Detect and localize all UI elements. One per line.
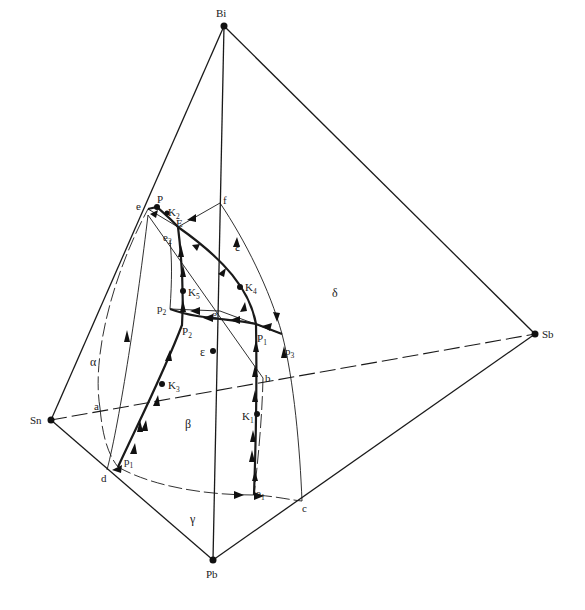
arrow-icon — [273, 312, 280, 322]
edge-bi-sn — [51, 26, 224, 420]
point-K5-dot — [180, 288, 186, 294]
arrow-icon — [178, 245, 184, 257]
label-P1: P1 — [257, 332, 267, 347]
label-f: f — [223, 194, 227, 206]
curve-a-e — [98, 209, 148, 408]
label-epsilon-upper: ε — [235, 240, 240, 254]
label-K4: K4 — [245, 281, 257, 296]
point-epsilon-dot — [210, 348, 216, 354]
vertex-bi-dot — [221, 23, 228, 30]
label-p2: p2 — [157, 302, 167, 317]
label-d: d — [101, 472, 107, 484]
label-K1: K1 — [242, 410, 254, 425]
label-beta: β — [185, 417, 191, 431]
vertex-dots — [48, 23, 539, 564]
vertex-sb-dot — [532, 331, 539, 338]
label-p1: p1 — [124, 455, 134, 470]
arrow-icon — [190, 307, 200, 315]
vertex-sn-dot — [48, 417, 55, 424]
arrow-icon — [252, 471, 258, 481]
edge-bi-pb — [213, 26, 224, 560]
label-b: b — [265, 372, 271, 384]
label-sn: Sn — [30, 414, 42, 426]
label-bi: Bi — [216, 7, 226, 19]
point-K3-dot — [159, 381, 165, 387]
curve-p2-e2 — [170, 240, 172, 309]
edge-bi-sb — [224, 26, 535, 334]
arrow-icon — [240, 302, 247, 312]
label-P: P — [157, 193, 163, 205]
label-sb: Sb — [542, 328, 554, 340]
point-K1-dot — [254, 411, 260, 417]
tetrahedron-diagram: Bi Sn Pb Sb α β γ δ ε ε a b c d e f g E … — [0, 0, 585, 610]
arrow-icon — [249, 450, 255, 462]
arrow-icon — [180, 300, 186, 312]
label-e2: e2 — [163, 231, 172, 246]
label-a: a — [94, 400, 99, 412]
label-P2: P2 — [182, 325, 192, 340]
label-K5: K5 — [188, 286, 200, 301]
label-pb: Pb — [206, 568, 218, 580]
arrow-icon — [124, 330, 130, 342]
arrow-icon — [230, 316, 240, 324]
label-gamma: γ — [189, 512, 196, 526]
arrow-icon — [192, 244, 200, 251]
arrow-icon — [234, 491, 244, 499]
point-K4-dot — [237, 284, 243, 290]
label-g: g — [212, 308, 218, 320]
label-e: e — [136, 200, 141, 212]
label-delta: δ — [332, 286, 338, 300]
label-alpha: α — [90, 355, 97, 369]
curve-a-p1 — [100, 408, 118, 467]
label-K3: K3 — [168, 379, 180, 394]
edge-pb-sb — [213, 334, 535, 560]
label-e1: e1 — [256, 487, 265, 502]
arrow-icon — [130, 443, 137, 454]
edge-sn-sb-hidden — [51, 334, 535, 420]
label-c: c — [302, 502, 307, 514]
vertex-pb-dot — [210, 557, 217, 564]
label-epsilon-lower: ε — [200, 345, 205, 359]
line-f-E — [178, 203, 220, 227]
diagram-canvas: Bi Sn Pb Sb α β γ δ ε ε a b c d e f g E … — [0, 0, 585, 610]
arrow-icon — [153, 395, 160, 406]
path-p1-E — [118, 227, 183, 467]
tetrahedron-edges — [51, 26, 535, 560]
curve-p1-e1-c — [118, 467, 302, 501]
